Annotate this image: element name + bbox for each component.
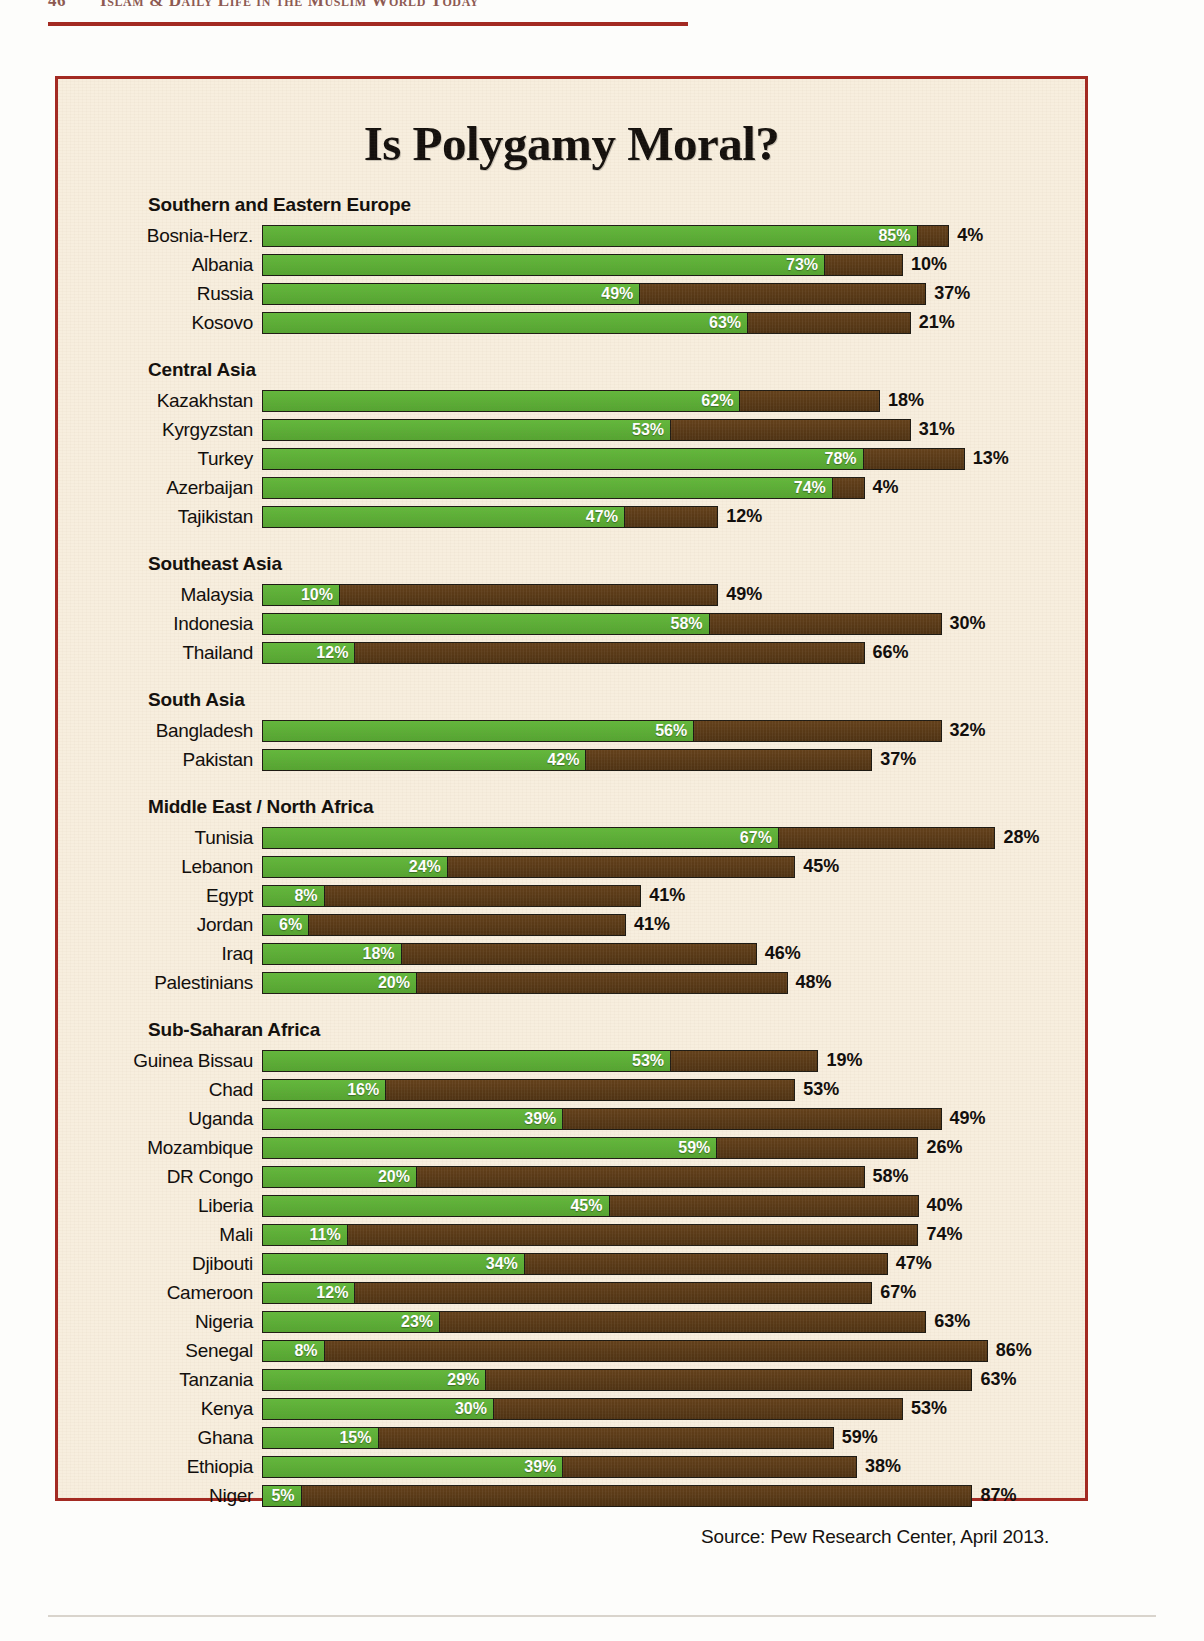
bar-area: 74%4% (262, 475, 1059, 500)
bar-segment-brown (325, 1341, 987, 1361)
row-label: Bangladesh (84, 720, 262, 742)
bar-segment-green: 42% (263, 750, 586, 770)
stacked-bar: 16% (262, 1079, 795, 1101)
bar-area: 59%26% (262, 1135, 1059, 1160)
bar-area: 12%67% (262, 1280, 1059, 1305)
bar-area: 8%86% (262, 1338, 1059, 1363)
row-label: Palestinians (84, 972, 262, 994)
bar-area: 58%30% (262, 611, 1059, 636)
bar-end-value: 63% (980, 1369, 1016, 1390)
bar-end-value: 4% (873, 477, 899, 498)
bar-area: 78%13% (262, 446, 1059, 471)
bar-segment-green: 45% (263, 1196, 610, 1216)
bar-segment-green-value: 78% (825, 450, 863, 468)
bar-segment-green-value: 59% (678, 1139, 716, 1157)
bar-segment-green: 47% (263, 507, 625, 527)
bar-segment-green: 53% (263, 1051, 671, 1071)
stacked-bar: 45% (262, 1195, 919, 1217)
bar-segment-green-value: 10% (301, 586, 339, 604)
chart-row: Tanzania29%63% (84, 1367, 1059, 1392)
bar-segment-green: 12% (263, 643, 355, 663)
bar-segment-brown (309, 915, 625, 935)
bar-area: 24%45% (262, 854, 1059, 879)
header-rule (48, 22, 688, 26)
chart-row: Lebanon24%45% (84, 854, 1059, 879)
chart-row: Tajikistan47%12% (84, 504, 1059, 529)
bar-segment-green: 49% (263, 284, 640, 304)
bar-segment-brown (417, 973, 787, 993)
book-page: 46 Islam & Daily Life in the Muslim Worl… (0, 0, 1204, 1641)
row-label: Kazakhstan (84, 390, 262, 412)
bar-segment-green: 56% (263, 721, 694, 741)
bar-segment-green: 78% (263, 449, 864, 469)
bar-end-value: 32% (950, 720, 986, 741)
bar-end-value: 53% (911, 1398, 947, 1419)
chart-section: South AsiaBangladesh56%32%Pakistan42%37% (84, 689, 1059, 772)
stacked-bar: 34% (262, 1253, 888, 1275)
row-label: Iraq (84, 943, 262, 965)
row-label: Mozambique (84, 1137, 262, 1159)
bar-segment-green-value: 53% (632, 421, 670, 439)
bar-segment-green-value: 58% (671, 615, 709, 633)
stacked-bar: 74% (262, 477, 865, 499)
bar-segment-green-value: 39% (524, 1458, 562, 1476)
bar-area: 85%4% (262, 223, 1059, 248)
bar-segment-brown (710, 614, 941, 634)
stacked-bar: 73% (262, 254, 903, 276)
stacked-bar: 78% (262, 448, 965, 470)
bar-area: 10%49% (262, 582, 1059, 607)
chart-row: Indonesia58%30% (84, 611, 1059, 636)
bar-segment-green: 39% (263, 1457, 563, 1477)
bar-end-value: 63% (934, 1311, 970, 1332)
bar-segment-brown (586, 750, 871, 770)
bar-segment-green-value: 45% (570, 1197, 608, 1215)
section-spacer (84, 533, 1059, 553)
bar-end-value: 66% (873, 642, 909, 663)
stacked-bar-chart: Southern and Eastern EuropeBosnia-Herz.8… (84, 194, 1059, 1508)
stacked-bar: 15% (262, 1427, 834, 1449)
bar-segment-brown (625, 507, 717, 527)
running-head: 46 Islam & Daily Life in the Muslim Worl… (0, 0, 1204, 13)
bar-segment-green-value: 74% (794, 479, 832, 497)
bar-segment-brown (864, 449, 964, 469)
stacked-bar: 20% (262, 972, 788, 994)
bar-end-value: 19% (826, 1050, 862, 1071)
bar-segment-green-value: 20% (378, 974, 416, 992)
stacked-bar: 63% (262, 312, 911, 334)
section-title: Southeast Asia (148, 553, 1059, 575)
bar-area: 20%58% (262, 1164, 1059, 1189)
stacked-bar: 53% (262, 419, 911, 441)
chart-row: Malaysia10%49% (84, 582, 1059, 607)
chart-row: Iraq18%46% (84, 941, 1059, 966)
chart-row: Kosovo63%21% (84, 310, 1059, 335)
bar-area: 63%21% (262, 310, 1059, 335)
stacked-bar: 85% (262, 225, 949, 247)
stacked-bar: 67% (262, 827, 995, 849)
bar-segment-green-value: 6% (279, 916, 308, 934)
row-label: Egypt (84, 885, 262, 907)
chart-row: Bangladesh56%32% (84, 718, 1059, 743)
bar-segment-brown (348, 1225, 918, 1245)
chart-row: Egypt8%41% (84, 883, 1059, 908)
row-label: Djibouti (84, 1253, 262, 1275)
chart-row: Ghana15%59% (84, 1425, 1059, 1450)
chart-row: Turkey78%13% (84, 446, 1059, 471)
row-label: Albania (84, 254, 262, 276)
bar-segment-green-value: 62% (701, 392, 739, 410)
bar-segment-brown (325, 886, 641, 906)
bar-segment-green: 24% (263, 857, 448, 877)
section-title: South Asia (148, 689, 1059, 711)
bar-segment-brown (717, 1138, 917, 1158)
stacked-bar: 56% (262, 720, 942, 742)
bar-end-value: 10% (911, 254, 947, 275)
stacked-bar: 8% (262, 885, 641, 907)
chart-row: Liberia45%40% (84, 1193, 1059, 1218)
bar-segment-green-value: 15% (339, 1429, 377, 1447)
bar-segment-green-value: 23% (401, 1313, 439, 1331)
bar-end-value: 59% (842, 1427, 878, 1448)
row-label: Niger (84, 1485, 262, 1507)
stacked-bar: 12% (262, 1282, 872, 1304)
section-title: Southern and Eastern Europe (148, 194, 1059, 216)
chart-row: Mozambique59%26% (84, 1135, 1059, 1160)
bar-segment-green: 63% (263, 313, 748, 333)
